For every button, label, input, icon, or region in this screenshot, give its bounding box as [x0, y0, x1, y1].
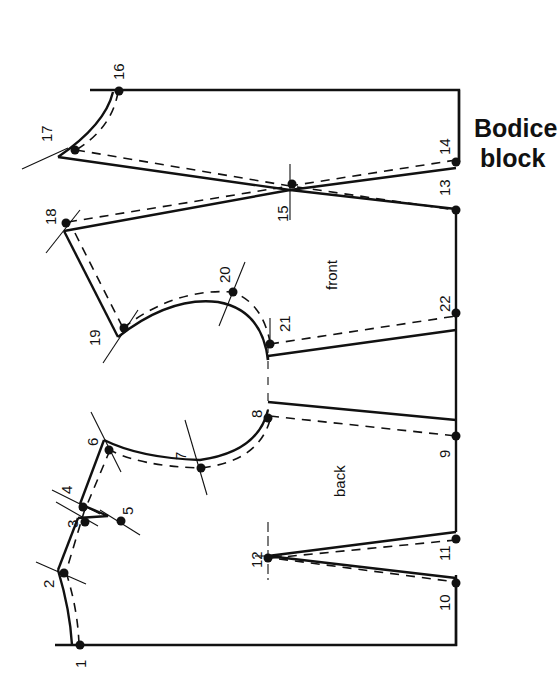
point-label-14: 14	[436, 138, 453, 155]
point-label-3: 3	[64, 520, 81, 528]
front-dart-lower-leg	[64, 168, 456, 231]
point-label-13: 13	[436, 179, 453, 196]
front-dart-lower-seam	[68, 160, 456, 222]
point-label-8: 8	[248, 410, 265, 418]
point-14-dot	[452, 158, 461, 167]
point-label-10: 10	[436, 594, 453, 611]
point-label-11: 11	[436, 545, 453, 561]
point-label-22: 22	[436, 295, 453, 312]
point-4-dot	[79, 503, 88, 512]
front-shoulder-seam	[75, 233, 123, 328]
point-3-dot	[81, 518, 90, 527]
point-label-18: 18	[42, 208, 59, 225]
front-panel-label: front	[323, 259, 340, 290]
point-label-6: 6	[84, 438, 101, 446]
back-side-seam-allowance	[270, 416, 456, 436]
point-label-19: 19	[86, 329, 103, 346]
point-label-9: 9	[436, 450, 453, 458]
point-18-dot	[62, 219, 71, 228]
point-2-dot	[60, 569, 69, 578]
title-line-1: Bodice	[474, 113, 557, 143]
front-shoulder-line	[64, 231, 118, 337]
point-16-dot	[115, 87, 124, 96]
point-label-16: 16	[110, 63, 127, 80]
back-panel-label: back	[331, 465, 348, 497]
point-label-12: 12	[248, 551, 265, 568]
front-top-line	[90, 90, 459, 162]
back-neck-curve	[58, 570, 72, 645]
point-label-4: 4	[58, 486, 75, 494]
front-armhole-curve	[118, 301, 268, 360]
point-label-7: 7	[172, 452, 189, 460]
point-11-dot	[452, 535, 461, 544]
point-label-5: 5	[119, 507, 136, 515]
point-label-15: 15	[274, 205, 291, 222]
point-7-dot	[197, 464, 206, 473]
front-side-seam-allowance	[270, 316, 456, 344]
point-21-dot	[266, 340, 275, 349]
point-5-dot	[117, 517, 126, 526]
point-label-2: 2	[40, 580, 57, 588]
title-line-2: block	[474, 143, 557, 173]
back-bottom-line	[55, 580, 456, 645]
point-10-dot	[452, 579, 461, 588]
back-side-seam	[268, 402, 456, 420]
front-dart-upper-seam	[76, 150, 456, 210]
point-19-dot	[120, 324, 129, 333]
point-17-dot	[71, 146, 80, 155]
diagram-title: Bodice block	[474, 113, 557, 173]
point-9-dot	[452, 432, 461, 441]
point-label-20: 20	[216, 266, 233, 283]
point-20-dot	[229, 288, 238, 297]
point-6-dot	[105, 446, 114, 455]
point-15-dot	[288, 180, 297, 189]
bodice-block-diagram: 1 2 3 4 5 6 7 8 9 10 11 12 13 14 15 16 1…	[0, 0, 559, 700]
point-label-21: 21	[276, 315, 293, 332]
point-label-17: 17	[38, 125, 55, 142]
point-label-1: 1	[72, 660, 89, 668]
front-side-seam	[268, 330, 456, 360]
point-1-dot	[76, 641, 85, 650]
point-13-dot	[452, 206, 461, 215]
